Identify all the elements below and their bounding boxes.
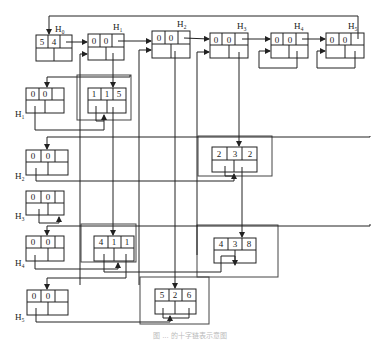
node2-col: 1	[112, 237, 117, 247]
col-h4-v0: 0	[275, 35, 280, 45]
node4-col: 2	[173, 290, 178, 300]
row-h3-v1: 0	[46, 192, 51, 202]
col-h3-v0: 0	[214, 35, 219, 45]
h0-rows: 5	[40, 37, 45, 47]
node1-col: 3	[233, 149, 238, 159]
node3-row: 4	[219, 239, 224, 249]
node0-val: 5	[117, 89, 122, 99]
row-h5-v0: 0	[32, 291, 37, 301]
col-h5-v0: 0	[330, 35, 335, 45]
row-h4-v0: 0	[31, 237, 36, 247]
label-col-h5: H₅	[348, 21, 358, 31]
col-h5-v1: 0	[343, 35, 348, 45]
label-row-h3: H₃	[15, 211, 25, 221]
label-row-h5: H₅	[15, 312, 25, 322]
node2-row: 4	[99, 237, 104, 247]
cross-links	[35, 50, 370, 322]
row-head-h4: 0 0 H₄	[15, 236, 64, 268]
label-col-h1: H₁	[113, 22, 123, 32]
col-h4-v1: 0	[288, 35, 293, 45]
row-h1-v0: 0	[31, 89, 36, 99]
node0-col: 1	[105, 89, 110, 99]
col-h1-v1: 0	[104, 36, 109, 46]
label-row-h4: H₄	[15, 258, 25, 268]
row-h3-v0: 0	[31, 192, 36, 202]
orthogonal-list-diagram: H₀ 5 4 H₁ 0 0 H₂ 0 0 H₃ 0	[0, 0, 379, 342]
element-node-4-3-8: 4 3 8	[197, 225, 278, 277]
node4-row: 5	[160, 290, 165, 300]
row-head-h2: 0 0 H₂	[15, 150, 68, 181]
node4-val: 6	[187, 290, 192, 300]
row-h2-v1: 0	[46, 151, 51, 161]
label-h0: H₀	[55, 24, 65, 34]
row-h2-v0: 0	[31, 151, 36, 161]
col-h2-v1: 0	[169, 33, 174, 43]
row-h5-v1: 0	[46, 291, 51, 301]
label-col-h4: H₄	[294, 21, 304, 31]
node1-val: 2	[248, 149, 253, 159]
row-head-h1: 0 0 H₁	[15, 88, 64, 119]
h0-cols: 4	[52, 37, 57, 47]
node3-val: 8	[247, 239, 252, 249]
label-col-h2: H₂	[177, 19, 187, 29]
col-h1-v0: 0	[92, 36, 97, 46]
node3-col: 3	[233, 239, 238, 249]
row-head-h3: 0 0 H₃	[15, 191, 64, 223]
col-h2-v0: 0	[157, 33, 162, 43]
label-col-h3: H₃	[237, 21, 247, 31]
col-h3-v1: 0	[227, 35, 232, 45]
element-node-2-3-2: 2 3 2	[198, 136, 272, 176]
element-node-4-1-1: 4 1 1	[81, 224, 136, 262]
node0-row: 1	[92, 89, 97, 99]
element-node-1-1-5: 1 1 5	[77, 75, 131, 120]
label-row-h2: H₂	[15, 171, 25, 181]
row-h4-v1: 0	[46, 237, 51, 247]
node2-val: 1	[125, 237, 130, 247]
label-row-h1: H₁	[15, 109, 25, 119]
row-h1-v1: 0	[43, 89, 48, 99]
node1-row: 2	[217, 149, 222, 159]
row-head-h5: 0 0 H₅	[15, 290, 68, 322]
figure-caption: 图 ... 的十字链表示意图	[153, 331, 227, 340]
